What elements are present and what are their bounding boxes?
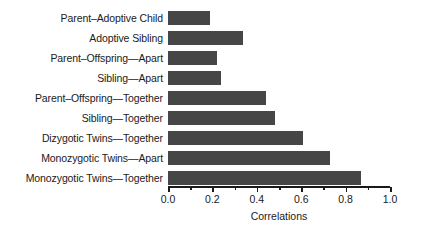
bar-category-label: Adoptive Sibling (89, 28, 163, 48)
bar-category-label: Parent–Offspring—Together (35, 88, 163, 108)
x-axis-tick-label: 0.0 (148, 193, 188, 205)
x-axis-tick-label: 0.6 (281, 193, 321, 205)
x-axis-minor-tick (190, 187, 192, 190)
x-axis-major-tick (346, 187, 348, 192)
bar-track (168, 111, 275, 125)
bar-category-label: Monozygotic Twins—Apart (41, 148, 163, 168)
x-axis-minor-tick (368, 187, 370, 190)
bar-track (168, 151, 330, 165)
bar-row: Sibling—Apart (0, 68, 423, 88)
bar-category-label: Sibling—Together (82, 108, 163, 128)
bar-category-label: Monozygotic Twins—Together (26, 168, 163, 188)
x-axis-minor-tick (279, 187, 281, 190)
bar-track (168, 11, 210, 25)
correlations-bar-chart: Parent–Adoptive ChildAdoptive SiblingPar… (0, 0, 423, 230)
bar[interactable] (168, 131, 303, 145)
bar[interactable] (168, 31, 243, 45)
bar-track (168, 171, 361, 185)
bar-category-label: Parent–Offspring—Apart (50, 48, 163, 68)
bar[interactable] (168, 11, 210, 25)
bar-track (168, 131, 303, 145)
x-axis-tick-label: 1.0 (370, 193, 410, 205)
x-axis-tick-label: 0.4 (237, 193, 277, 205)
bar-row: Monozygotic Twins—Together (0, 168, 423, 188)
bar-row: Sibling—Together (0, 108, 423, 128)
x-axis-major-tick (212, 187, 214, 192)
bar[interactable] (168, 51, 217, 65)
x-axis-tick-label: 0.2 (192, 193, 232, 205)
bar-row: Parent–Offspring—Together (0, 88, 423, 108)
bar-track (168, 31, 243, 45)
bar-row: Monozygotic Twins—Apart (0, 148, 423, 168)
bar-row: Parent–Offspring—Apart (0, 48, 423, 68)
bar[interactable] (168, 151, 330, 165)
x-axis-major-tick (257, 187, 259, 192)
x-axis-major-tick (168, 187, 170, 192)
x-axis-title: Correlations (168, 210, 390, 222)
bar-row: Dizygotic Twins—Together (0, 128, 423, 148)
x-axis-major-tick (390, 187, 392, 192)
bar-row: Parent–Adoptive Child (0, 8, 423, 28)
bar-track (168, 71, 221, 85)
bar[interactable] (168, 71, 221, 85)
bar-category-label: Dizygotic Twins—Together (42, 128, 163, 148)
bar-category-label: Sibling—Apart (97, 68, 163, 88)
x-axis-minor-tick (235, 187, 237, 190)
bar[interactable] (168, 111, 275, 125)
x-axis-major-tick (301, 187, 303, 192)
bar-track (168, 51, 217, 65)
bar[interactable] (168, 91, 266, 105)
bar-row: Adoptive Sibling (0, 28, 423, 48)
bar[interactable] (168, 171, 361, 185)
bar-track (168, 91, 266, 105)
x-axis-tick-label: 0.8 (326, 193, 366, 205)
x-axis-minor-tick (323, 187, 325, 190)
bar-category-label: Parent–Adoptive Child (61, 8, 163, 28)
